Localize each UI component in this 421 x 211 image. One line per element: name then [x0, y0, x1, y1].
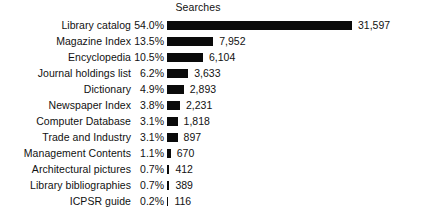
- chart-row: Management Contents1.1%670: [0, 146, 421, 162]
- row-percent-label: 54.0%: [131, 19, 164, 32]
- chart-row: Newspaper Index3.8%2,231: [0, 98, 421, 114]
- row-value-label: 116: [174, 195, 191, 208]
- row-category-label: Management Contents: [0, 147, 131, 160]
- row-category-label: Newspaper Index: [0, 99, 131, 112]
- row-percent-label: 6.2%: [131, 67, 164, 80]
- chart-row: Library bibliographies0.7%389: [0, 178, 421, 194]
- row-bar: [167, 133, 178, 142]
- chart-row: Journal holdings list6.2%3,633: [0, 66, 421, 82]
- row-value-label: 2,231: [186, 99, 212, 112]
- row-percent-label: 0.2%: [131, 195, 164, 208]
- chart-row: Architectural pictures0.7%412: [0, 162, 421, 178]
- row-category-label: Library bibliographies: [0, 179, 131, 192]
- chart-row: Computer Database3.1%1,818: [0, 114, 421, 130]
- chart-rows: Library catalog54.0%31,597Magazine Index…: [0, 18, 421, 210]
- row-category-label: Magazine Index: [0, 35, 131, 48]
- row-percent-label: 3.8%: [131, 99, 164, 112]
- row-category-label: Computer Database: [0, 115, 131, 128]
- row-bar-track: [167, 53, 357, 62]
- row-value-label: 6,104: [209, 51, 235, 64]
- chart-row: Trade and Industry3.1%897: [0, 130, 421, 146]
- row-category-label: Library catalog: [0, 19, 131, 32]
- row-bar: [167, 53, 203, 62]
- row-bar-track: [167, 197, 357, 206]
- row-bar: [167, 85, 184, 94]
- row-category-label: Journal holdings list: [0, 67, 131, 80]
- row-value-label: 2,893: [190, 83, 216, 96]
- row-value-label: 31,597: [358, 19, 390, 32]
- row-value-label: 670: [177, 147, 195, 160]
- row-bar: [167, 197, 168, 206]
- row-value-label: 7,952: [219, 35, 245, 48]
- row-percent-label: 10.5%: [131, 51, 164, 64]
- row-bar: [167, 37, 213, 46]
- row-category-label: ICPSR guide: [0, 195, 131, 208]
- row-value-label: 1,818: [184, 115, 210, 128]
- row-category-label: Encyclopedia: [0, 51, 131, 64]
- row-value-label: 389: [175, 179, 193, 192]
- row-percent-label: 3.1%: [131, 115, 164, 128]
- row-bar-track: [167, 181, 357, 190]
- row-bar: [167, 149, 171, 158]
- row-bar: [167, 69, 188, 78]
- row-value-label: 897: [184, 131, 202, 144]
- row-bar: [167, 117, 178, 126]
- row-category-label: Trade and Industry: [0, 131, 131, 144]
- row-bar: [167, 165, 169, 174]
- chart-title: Searches: [0, 1, 396, 13]
- row-bar-track: [167, 21, 357, 30]
- row-category-label: Architectural pictures: [0, 163, 131, 176]
- row-value-label: 3,633: [194, 67, 220, 80]
- row-bar: [167, 21, 352, 30]
- row-percent-label: 0.7%: [131, 179, 164, 192]
- searches-bar-chart: Searches Library catalog54.0%31,597Magaz…: [0, 0, 421, 211]
- row-bar: [167, 181, 169, 190]
- row-bar-track: [167, 165, 357, 174]
- row-value-label: 412: [175, 163, 193, 176]
- row-bar-track: [167, 37, 357, 46]
- row-percent-label: 13.5%: [131, 35, 164, 48]
- row-percent-label: 0.7%: [131, 163, 164, 176]
- chart-row: Magazine Index13.5%7,952: [0, 34, 421, 50]
- chart-row: ICPSR guide0.2%116: [0, 194, 421, 210]
- chart-row: Encyclopedia10.5%6,104: [0, 50, 421, 66]
- row-percent-label: 3.1%: [131, 131, 164, 144]
- row-bar: [167, 101, 180, 110]
- row-percent-label: 1.1%: [131, 147, 164, 160]
- chart-row: Library catalog54.0%31,597: [0, 18, 421, 34]
- row-category-label: Dictionary: [0, 83, 131, 96]
- chart-row: Dictionary4.9%2,893: [0, 82, 421, 98]
- row-bar-track: [167, 149, 357, 158]
- row-percent-label: 4.9%: [131, 83, 164, 96]
